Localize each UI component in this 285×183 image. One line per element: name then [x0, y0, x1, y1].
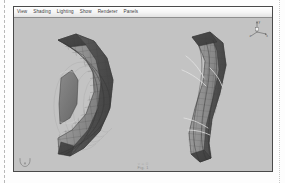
axis-origin-handle[interactable]: [255, 28, 258, 31]
view-compass-icon[interactable]: [18, 157, 32, 168]
menu-item-lighting[interactable]: Lighting: [56, 9, 75, 15]
axis-label-y: y: [259, 20, 261, 24]
scene-render: [14, 18, 272, 172]
application-window: View Shading Lighting Show Renderer Pane…: [13, 6, 273, 172]
viewport-background: [14, 18, 272, 172]
menu-item-view[interactable]: View: [16, 9, 28, 15]
menu-item-panels[interactable]: Panels: [123, 9, 140, 15]
page-sheet: View Shading Lighting Show Renderer Pane…: [0, 0, 285, 183]
menu-item-show[interactable]: Show: [79, 9, 93, 15]
menu-bar: View Shading Lighting Show Renderer Pane…: [14, 7, 272, 18]
menu-item-shading[interactable]: Shading: [32, 9, 52, 15]
crop-mark-right: [279, 0, 280, 183]
axis-label-x: x: [266, 34, 268, 38]
crop-mark-left: [4, 0, 5, 183]
axis-gizmo[interactable]: y x z: [249, 20, 269, 38]
viewport-3d[interactable]: y x z v = 0 Fig. 1: [14, 18, 272, 172]
menu-item-renderer[interactable]: Renderer: [97, 9, 119, 15]
